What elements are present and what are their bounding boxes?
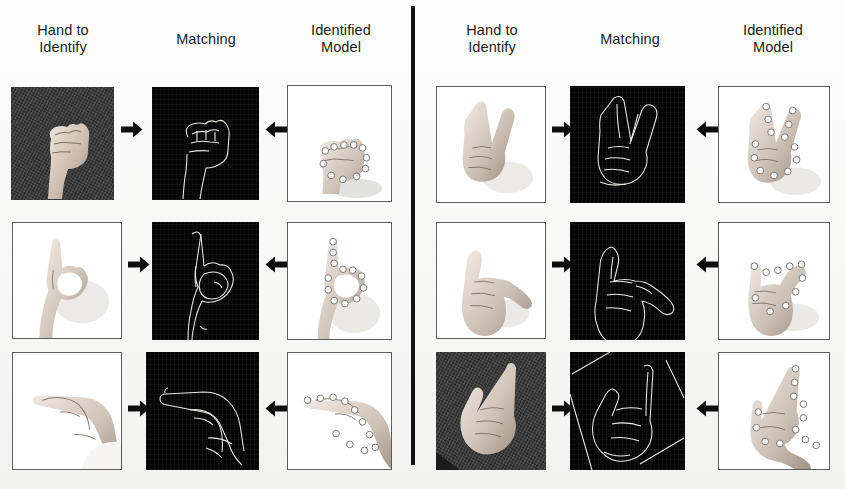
right-column-headers: Hand to Identify Matching Identified Mod… [415,22,845,68]
header-hand-to-identify: Hand to Identify [3,22,123,56]
arrow-forward-row1 [121,121,143,138]
victory-contour [570,86,685,203]
l-sign-contour [570,352,685,470]
arrow-backward-row1 [265,121,287,138]
arrow-forward-row2 [128,256,150,273]
header-identified-model: Identified Model [713,22,833,56]
header-identified-model: Identified Model [281,22,401,56]
input-image-row1 [11,87,114,200]
l-sign-model-landmarks [719,353,829,469]
matching-image-row2 [152,222,259,340]
matching-image-row3 [146,352,259,470]
model-image-row3 [287,352,392,470]
matching-image-row1 [152,87,259,200]
model-image-row1 [718,86,830,203]
index-up-loop-photo [13,223,121,338]
closed-fist-contour [152,87,259,200]
left-column-headers: Hand to Identify Matching Identified Mod… [0,22,411,68]
header-hand-to-identify: Hand to Identify [432,22,552,56]
pointing-left-contour [146,352,259,470]
matching-image-row3 [570,352,685,470]
horns-y-photo [437,223,545,338]
pointing-left-model-landmarks [288,353,391,469]
closed-fist-model-landmarks [288,86,391,201]
header-matching: Matching [146,22,266,48]
horns-y-contour [570,222,685,340]
model-image-row3 [718,352,830,470]
arrow-backward-row3 [696,400,718,417]
matching-image-row1 [570,86,685,203]
hand-recognition-figure: Hand to Identify Matching Identified Mod… [0,0,845,489]
arrow-backward-row2 [265,256,287,273]
input-image-row3 [12,352,122,470]
matching-image-row2 [570,222,685,340]
model-image-row2 [287,222,392,340]
input-image-row2 [436,222,546,339]
victory-photo [437,87,545,202]
victory-model-landmarks [719,87,829,202]
l-sign-photo [436,352,546,470]
horns-y-model-landmarks [719,223,829,339]
header-matching: Matching [570,22,690,48]
index-up-loop-model-landmarks [288,223,391,339]
right-panel: Hand to Identify Matching Identified Mod… [415,0,845,489]
input-image-row1 [436,86,546,203]
model-image-row1 [287,85,392,202]
closed-fist-photo [11,87,114,200]
input-image-row2 [12,222,122,339]
index-up-loop-contour [152,222,259,340]
arrow-backward-row1 [696,121,718,138]
arrow-backward-row2 [696,256,718,273]
model-image-row2 [718,222,830,340]
input-image-row3 [436,352,546,470]
pointing-left-photo [13,353,121,469]
left-panel: Hand to Identify Matching Identified Mod… [0,0,411,489]
arrow-backward-row3 [265,400,287,417]
